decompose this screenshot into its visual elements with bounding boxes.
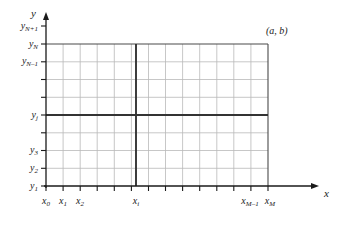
y-tick-sub-y2: 2 [35,167,39,175]
y-axis-ticks [41,26,46,186]
y-tick-label-y2: y2 [0,163,38,173]
x-axis-arrow [311,183,319,189]
x-axis-ticks [46,186,268,191]
x-tick-label-xi: xi [122,196,150,206]
y-tick-sub-yN: N [33,43,38,51]
y-axis-arrow [43,12,49,20]
x-axis-label: x [324,188,329,199]
y-tick-label-y3: y3 [0,145,38,155]
x-tick-label-xM: xM [256,196,284,206]
x-tick-sub-xi: i [137,200,139,208]
y-tick-base-y3: y [30,144,34,155]
y-tick-label-yNm1: yN–1 [0,56,38,66]
x-tick-label-x2: x2 [66,196,94,206]
y-tick-base-y1: y [30,180,34,191]
diagram-canvas [0,0,341,226]
x-tick-sub-x2: 2 [80,200,84,208]
y-axis-label: y [31,8,36,19]
y-tick-sub-yj: j [36,114,38,122]
y-tick-sub-y3: 3 [35,149,39,157]
y-tick-sub-yNm1: N–1 [26,60,38,68]
x-tick-sub-xM: M [269,200,275,208]
y-tick-label-yN: yN [0,39,38,49]
y-tick-label-yN1: yN+1 [0,21,38,31]
grid-diagram: y x (a, b) yN+1 yN yN–1 yj y3 y2 y1 x0 x… [0,0,341,226]
y-tick-base-y2: y [30,162,34,173]
corner-annotation: (a, b) [266,26,288,36]
y-tick-label-yj: yj [0,110,38,120]
y-tick-sub-y1: 1 [35,185,39,193]
y-tick-sub-yN1: N+1 [25,25,38,33]
y-tick-label-y1: y1 [0,181,38,191]
